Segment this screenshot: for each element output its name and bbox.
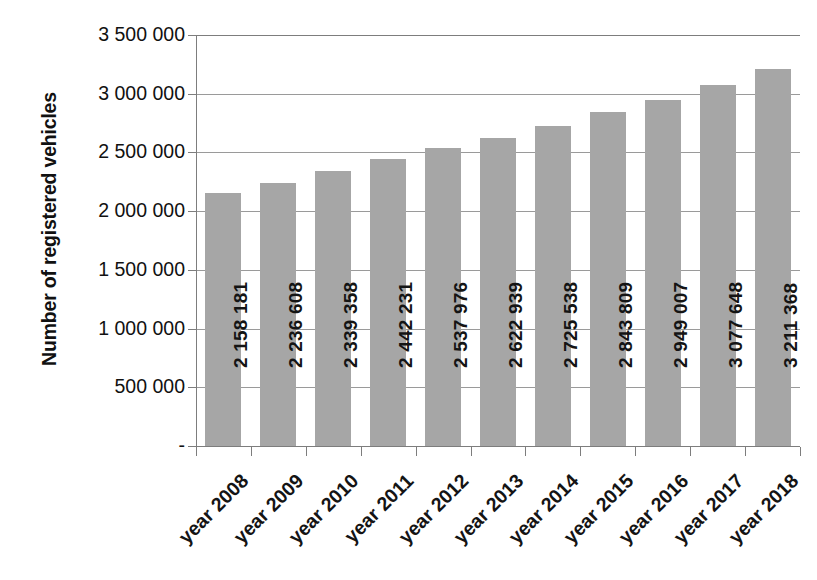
x-tick-mark — [800, 447, 801, 456]
y-tick-label: 500 000 — [0, 378, 185, 398]
y-tick-mark — [188, 329, 197, 330]
y-tick-mark — [188, 94, 197, 95]
x-tick-mark — [196, 447, 197, 456]
y-tick-label: - — [0, 436, 185, 456]
bar[interactable] — [590, 112, 626, 446]
x-tick-mark — [690, 447, 691, 456]
bar[interactable] — [755, 69, 791, 446]
y-tick-mark — [188, 270, 197, 271]
bar-value-label: 2 236 608 — [285, 282, 307, 368]
x-tick-mark — [306, 447, 307, 456]
y-tick-label: 1 000 000 — [0, 319, 185, 339]
plot-area — [196, 35, 800, 446]
y-tick-mark — [188, 152, 197, 153]
bar-value-label: 2 158 181 — [230, 282, 252, 368]
x-tick-mark — [635, 447, 636, 456]
x-tick-mark — [580, 447, 581, 456]
gridline — [196, 35, 800, 36]
bar-value-label: 2 725 538 — [560, 282, 582, 368]
bar-value-label: 2 843 809 — [615, 282, 637, 368]
bar[interactable] — [645, 100, 681, 446]
x-tick-mark — [471, 447, 472, 456]
y-tick-mark — [188, 387, 197, 388]
gridline — [196, 446, 800, 447]
y-tick-label: 3 500 000 — [0, 25, 185, 45]
bar-value-label: 3 211 368 — [780, 283, 802, 368]
y-tick-mark — [188, 211, 197, 212]
x-tick-mark — [251, 447, 252, 456]
y-tick-label: 3 000 000 — [0, 84, 185, 104]
y-tick-label: 1 500 000 — [0, 260, 185, 280]
bar-chart: Number of registered vehicles -500 0001 … — [0, 0, 817, 580]
bar-value-label: 2 949 007 — [670, 282, 692, 368]
bar-value-label: 2 339 358 — [340, 282, 362, 368]
x-tick-mark — [525, 447, 526, 456]
bar-value-label: 2 442 231 — [395, 282, 417, 368]
bar[interactable] — [700, 85, 736, 446]
bar-value-label: 2 537 976 — [450, 282, 472, 368]
bar-value-label: 2 622 939 — [505, 282, 527, 368]
y-tick-label: 2 500 000 — [0, 143, 185, 163]
y-tick-mark — [188, 35, 197, 36]
y-tick-label: 2 000 000 — [0, 201, 185, 221]
bar-value-label: 3 077 648 — [725, 282, 747, 368]
x-tick-mark — [745, 447, 746, 456]
x-tick-mark — [361, 447, 362, 456]
x-tick-mark — [416, 447, 417, 456]
